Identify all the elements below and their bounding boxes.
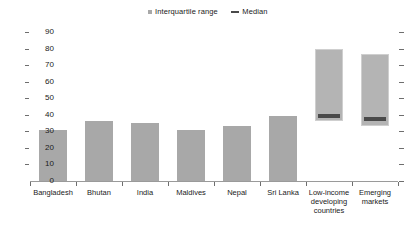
x-axis-tick-mark xyxy=(168,182,169,186)
x-axis-label: Low-income developing countries xyxy=(306,188,352,215)
x-axis-tick-mark xyxy=(30,182,31,186)
y-axis-tick-mark-right xyxy=(399,181,404,182)
x-axis-label: Bangladesh xyxy=(30,188,76,197)
y-axis-tick-mark-right xyxy=(399,164,404,165)
bar xyxy=(269,116,298,181)
chart-container: Interquartile range Median BangladeshBhu… xyxy=(0,0,415,229)
x-axis: BangladeshBhutanIndiaMaldivesNepalSri La… xyxy=(30,182,398,229)
square-swatch-icon xyxy=(148,10,152,14)
median-line xyxy=(364,117,386,121)
x-axis-tick-mark xyxy=(76,182,77,186)
y-axis-tick-mark-right xyxy=(399,82,404,83)
x-axis-tick-mark xyxy=(214,182,215,186)
y-axis-tick-mark xyxy=(25,98,30,99)
x-axis-label: Bhutan xyxy=(76,188,122,197)
bar-column xyxy=(361,32,390,181)
legend-label-interquartile-range: Interquartile range xyxy=(155,8,218,16)
y-axis-tick-mark-right xyxy=(399,49,404,50)
chart-legend: Interquartile range Median xyxy=(0,8,415,16)
y-axis-tick-mark xyxy=(25,131,30,132)
legend-item-interquartile-range: Interquartile range xyxy=(148,8,218,16)
y-axis-tick-mark xyxy=(25,164,30,165)
y-axis-tick-mark-right xyxy=(399,148,404,149)
x-axis-tick-mark xyxy=(306,182,307,186)
interquartile-range-box xyxy=(361,54,390,127)
bar xyxy=(131,123,160,181)
y-axis-tick-mark-right xyxy=(399,115,404,116)
x-axis-tick-mark xyxy=(122,182,123,186)
x-axis-label: Emerging markets xyxy=(352,188,398,206)
interquartile-range-box xyxy=(315,49,344,122)
bar xyxy=(85,121,114,181)
x-axis-tick-mark xyxy=(260,182,261,186)
x-axis-label: Sri Lanka xyxy=(260,188,306,197)
y-axis-tick-mark xyxy=(25,32,30,33)
bar-column xyxy=(131,32,160,181)
y-axis-tick-mark xyxy=(25,115,30,116)
legend-label-median: Median xyxy=(242,8,267,16)
bar xyxy=(177,130,206,181)
x-axis-tick-mark xyxy=(352,182,353,186)
y-axis-tick-mark-right xyxy=(399,131,404,132)
y-axis-tick-mark xyxy=(25,49,30,50)
bar-column xyxy=(177,32,206,181)
bar-column xyxy=(269,32,298,181)
y-axis-tick-mark-right xyxy=(399,98,404,99)
x-axis-label: Nepal xyxy=(214,188,260,197)
bar xyxy=(223,126,252,181)
median-line xyxy=(318,114,340,118)
bar xyxy=(39,130,68,181)
plot-area xyxy=(30,32,398,181)
y-axis-tick-mark-right xyxy=(399,65,404,66)
y-axis-tick-mark-right xyxy=(399,32,404,33)
bar-column xyxy=(223,32,252,181)
x-axis-label: Maldives xyxy=(168,188,214,197)
y-axis-tick-mark xyxy=(25,65,30,66)
bar-column xyxy=(315,32,344,181)
x-axis-tick-mark xyxy=(398,182,399,186)
x-axis-label: India xyxy=(122,188,168,197)
y-axis-tick-mark xyxy=(25,148,30,149)
bar-column xyxy=(85,32,114,181)
y-axis-tick-mark xyxy=(25,82,30,83)
legend-item-median: Median xyxy=(231,8,268,16)
dash-line-icon xyxy=(231,11,239,13)
